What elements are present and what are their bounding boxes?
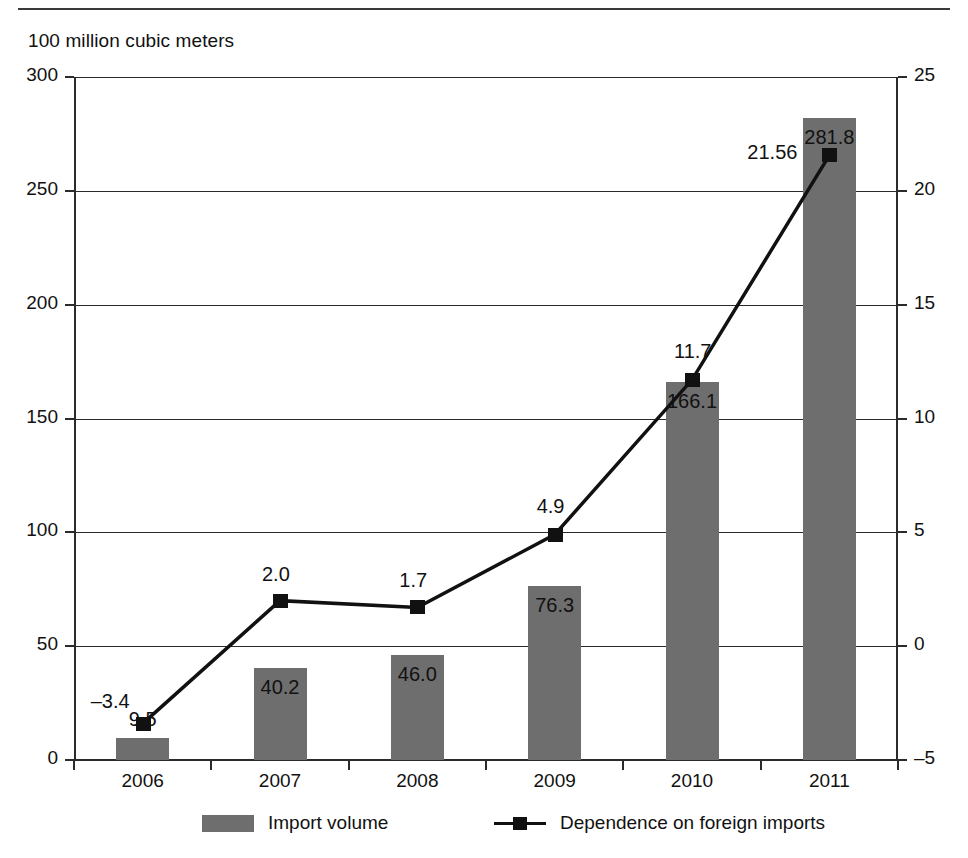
- bar: [803, 118, 856, 760]
- x-axis-tick: [348, 760, 350, 770]
- chart-figure: 100 million cubic meters 050100150200250…: [0, 0, 968, 858]
- right-axis-tick: [898, 418, 907, 420]
- line-data-label: 4.9: [537, 495, 565, 518]
- left-axis-tick-label: 50: [37, 633, 58, 655]
- line-polyline: [143, 155, 830, 723]
- right-axis-tick: [898, 759, 907, 761]
- left-axis-tick: [65, 418, 74, 420]
- chart-legend: Import volumeDependence on foreign impor…: [74, 812, 898, 846]
- x-axis-category-label: 2011: [769, 770, 889, 792]
- right-axis-tick: [898, 645, 907, 647]
- bar-data-label: 40.2: [220, 676, 340, 699]
- right-axis-tick-label: 5: [914, 519, 925, 541]
- gridline: [74, 646, 898, 647]
- right-axis-tick: [898, 190, 907, 192]
- gridline: [74, 419, 898, 420]
- bar: [116, 738, 169, 760]
- x-axis-category-label: 2007: [220, 770, 340, 792]
- legend-square-marker: [513, 817, 527, 830]
- right-axis-tick-label: 15: [914, 292, 935, 314]
- left-axis-tick-label: 200: [26, 292, 58, 314]
- right-axis-tick-label: 25: [914, 64, 935, 86]
- plot-area: 050100150200250300 –50510152025 20062007…: [74, 77, 898, 760]
- left-axis-tick-label: 300: [26, 64, 58, 86]
- gridline: [74, 191, 898, 192]
- right-axis-tick-label: –5: [914, 747, 935, 769]
- y-axis-unit-label: 100 million cubic meters: [28, 30, 234, 52]
- line-data-label: 1.7: [399, 569, 427, 592]
- bar-swatch-icon: [202, 815, 254, 832]
- bar-data-label: 46.0: [357, 663, 477, 686]
- left-axis-tick-label: 100: [26, 519, 58, 541]
- right-axis-tick-label: 10: [914, 406, 935, 428]
- x-axis-tick: [210, 760, 212, 770]
- line-marker: [136, 717, 151, 731]
- x-axis-category-label: 2006: [83, 770, 203, 792]
- x-axis-tick: [897, 760, 899, 770]
- left-axis-tick-label: 250: [26, 178, 58, 200]
- line-data-label: 11.7: [674, 340, 711, 363]
- line-marker: [822, 148, 837, 162]
- x-axis-category-label: 2009: [495, 770, 615, 792]
- left-axis-tick: [65, 645, 74, 647]
- gridline: [74, 532, 898, 533]
- left-axis-tick: [65, 76, 74, 78]
- right-axis-tick: [898, 304, 907, 306]
- x-axis-category-label: 2010: [632, 770, 752, 792]
- bar-data-label: 76.3: [495, 594, 615, 617]
- right-axis-tick-label: 0: [914, 633, 925, 655]
- gridline: [74, 305, 898, 306]
- x-axis-tick: [622, 760, 624, 770]
- bar-data-label: 166.1: [632, 390, 752, 413]
- gridline: [74, 77, 898, 78]
- line-marker: [410, 600, 425, 614]
- line-marker-icon: [494, 815, 546, 832]
- x-axis-tick: [485, 760, 487, 770]
- legend-item-label: Dependence on foreign imports: [560, 812, 825, 834]
- right-axis-tick: [898, 531, 907, 533]
- left-axis-tick: [65, 190, 74, 192]
- left-axis-tick: [65, 304, 74, 306]
- legend-item[interactable]: Dependence on foreign imports: [494, 812, 825, 834]
- x-axis-tick: [760, 760, 762, 770]
- legend-item-label: Import volume: [268, 812, 388, 834]
- line-marker: [685, 373, 700, 387]
- right-axis-tick-label: 20: [914, 178, 935, 200]
- x-axis-category-label: 2008: [357, 770, 477, 792]
- left-axis-tick: [65, 531, 74, 533]
- x-axis-tick: [73, 760, 75, 770]
- right-axis-tick: [898, 76, 907, 78]
- line-marker: [548, 528, 563, 542]
- left-axis-tick-label: 0: [47, 747, 58, 769]
- left-axis-tick-label: 150: [26, 406, 58, 428]
- line-marker: [273, 594, 288, 608]
- legend-item[interactable]: Import volume: [202, 812, 388, 834]
- bar: [666, 382, 719, 760]
- line-data-label: 21.56: [747, 141, 797, 164]
- line-data-label: 2.0: [262, 563, 290, 586]
- line-data-label: –3.4: [91, 690, 130, 713]
- top-divider-rule: [18, 8, 950, 10]
